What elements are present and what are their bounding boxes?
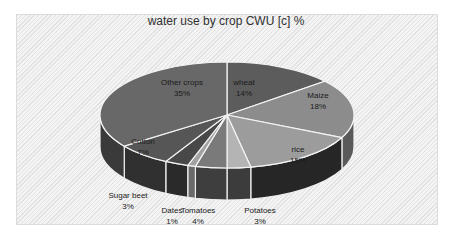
slice-label-name: Other crops — [161, 78, 203, 87]
slice-label-value: 35% — [174, 89, 190, 98]
pie-side-dates — [188, 165, 196, 198]
slice-label-value: 15% — [290, 156, 306, 165]
slice-label-value: 18% — [310, 102, 326, 111]
slice-label-value: 14% — [236, 89, 252, 98]
slice-label-name: Potatoes — [244, 206, 276, 215]
slice-label-name: Maize — [307, 91, 329, 100]
slice-label-name: Dates — [162, 206, 183, 215]
pie-side-sugar-beet — [166, 161, 188, 197]
slice-label-value: 1% — [166, 217, 178, 226]
slice-label-value: 3% — [254, 217, 266, 226]
slice-label-name: Cotton — [131, 137, 155, 146]
slice-label-name: wheat — [232, 78, 255, 87]
slice-label-value: 4% — [192, 217, 204, 226]
slice-label-name: Sugar beet — [108, 191, 148, 200]
slice-label-name: Tomatoes — [181, 206, 216, 215]
pie-side-potatoes — [227, 167, 251, 200]
slice-label-value: 7% — [137, 148, 149, 157]
pie-chart: wheat14%Maize18%rice15%Potatoes3%Tomatoe… — [0, 0, 452, 237]
slice-label-name: rice — [292, 145, 305, 154]
slice-label-value: 3% — [122, 202, 134, 211]
pie-side-tomatoes — [195, 166, 227, 200]
